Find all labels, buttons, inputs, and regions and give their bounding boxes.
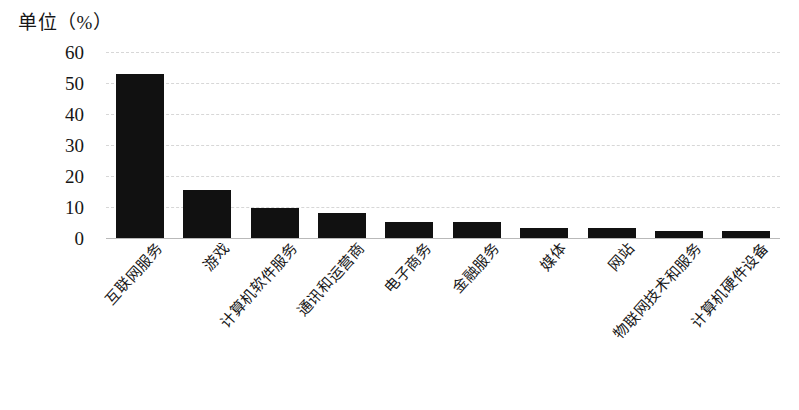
x-label: 网站 (605, 240, 638, 274)
x-label-text: 电子商务 (382, 240, 436, 297)
bar (453, 222, 501, 238)
x-label: 电子商务 (382, 240, 436, 297)
x-label: 媒体 (537, 240, 570, 274)
x-label: 通讯和运营商 (294, 240, 368, 320)
y-tick-label-60: 60 (24, 43, 84, 62)
x-label-text: 媒体 (537, 240, 570, 274)
x-label-text: 金融服务 (449, 240, 503, 297)
x-axis-category-labels: 互联网服务游戏计算机软件服务通讯和运营商电子商务金融服务媒体网站物联网技术和服务… (106, 240, 780, 405)
y-tick-label-40: 40 (24, 105, 84, 124)
bar (116, 74, 164, 238)
bar (318, 213, 366, 238)
plot-area (106, 52, 780, 238)
y-tick-label-0: 0 (24, 229, 84, 248)
y-tick-label-30: 30 (24, 136, 84, 155)
bar (520, 228, 568, 238)
x-label-text: 通讯和运营商 (294, 240, 368, 320)
y-tick-label-20: 20 (24, 167, 84, 186)
x-label: 金融服务 (449, 240, 503, 297)
x-label: 游戏 (200, 240, 233, 274)
bar (588, 228, 636, 238)
x-label-text: 网站 (605, 240, 638, 274)
bar (385, 222, 433, 238)
bar (655, 231, 703, 238)
x-label-text: 游戏 (200, 240, 233, 274)
x-label: 互联网服务 (102, 240, 166, 309)
bar (183, 190, 231, 238)
bar (251, 208, 299, 238)
chart-unit-title: 单位（%） (18, 12, 112, 34)
bar (722, 231, 770, 238)
bars-layer (106, 52, 780, 238)
x-label-text: 互联网服务 (102, 240, 166, 309)
y-tick-label-50: 50 (24, 74, 84, 93)
y-tick-label-10: 10 (24, 198, 84, 217)
gridline-0 (106, 238, 780, 239)
bar-chart: 单位（%） 0102030405060 互联网服务游戏计算机软件服务通讯和运营商… (0, 0, 799, 410)
